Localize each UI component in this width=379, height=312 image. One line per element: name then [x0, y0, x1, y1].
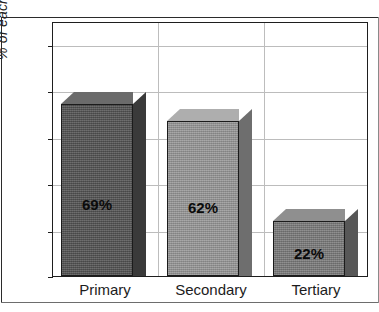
bar-chart-figure: % of each age group in education 100 80 …	[0, 0, 379, 312]
y-tick-mark-100	[48, 46, 53, 47]
y-tick-mark-0	[48, 277, 53, 278]
bar-primary-grain	[62, 105, 132, 275]
x-axis-label-secondary: Secondary	[158, 281, 264, 298]
bar-secondary-top-face	[167, 109, 239, 121]
x-axis-label-primary: Primary	[52, 281, 158, 298]
y-axis-title: % of each age group in education	[0, 0, 10, 60]
bar-secondary-side-face	[239, 109, 252, 276]
bar-primary-front-face	[61, 104, 133, 276]
y-tick-mark-40	[48, 185, 53, 186]
bar-primary[interactable]: 69%	[61, 104, 133, 276]
bar-tertiary-top-face	[273, 209, 345, 221]
x-axis-label-tertiary: Tertiary	[264, 281, 368, 298]
bar-primary-value-label: 69%	[61, 196, 133, 213]
y-tick-mark-80	[48, 92, 53, 93]
gridline-category-2	[264, 23, 265, 276]
plot-area: 69% 62% 22%	[52, 22, 368, 277]
bar-secondary-value-label: 62%	[167, 199, 239, 216]
figure-bottom-rule	[1, 302, 378, 303]
bar-tertiary-side-face	[345, 209, 358, 276]
bar-secondary[interactable]: 62%	[167, 121, 239, 276]
bar-tertiary-value-label: 22%	[273, 245, 345, 262]
y-tick-mark-20	[48, 232, 53, 233]
gridline-category-1	[158, 23, 159, 276]
y-tick-mark-60	[48, 139, 53, 140]
bar-primary-side-face	[133, 92, 146, 276]
bar-tertiary[interactable]: 22%	[273, 221, 345, 276]
bar-primary-top-face	[61, 92, 133, 104]
gridline-100	[53, 46, 367, 47]
